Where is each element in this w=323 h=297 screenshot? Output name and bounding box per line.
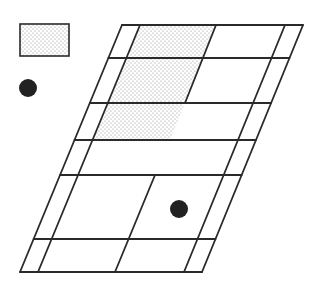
- outer-left-line: [20, 25, 122, 272]
- court-diagram: [0, 0, 323, 297]
- dot-markers: [170, 200, 188, 218]
- inner-left-line: [38, 25, 140, 272]
- legend: [19, 24, 69, 97]
- shaded-region: [93, 103, 185, 140]
- diagram-canvas: [0, 0, 323, 297]
- shaded-area: [93, 25, 216, 140]
- legend-dot-icon: [19, 79, 37, 97]
- lower-center-line: [115, 175, 155, 272]
- legend-shaded-swatch: [20, 24, 69, 56]
- outer-right-line: [202, 25, 303, 272]
- court-dot-icon: [170, 200, 188, 218]
